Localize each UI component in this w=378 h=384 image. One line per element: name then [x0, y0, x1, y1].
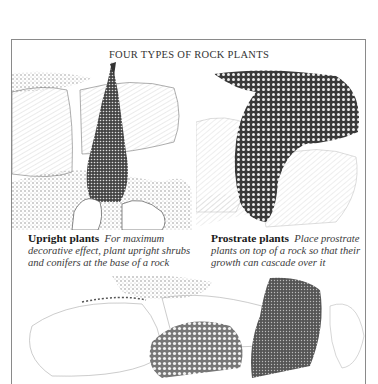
cushion-plants-illustration — [12, 276, 365, 378]
upright-plants-caption: Upright plants For maximum decorative ef… — [28, 232, 203, 269]
prostrate-plants-caption: Prostrate plants Place prostrate plants … — [211, 232, 371, 269]
upright-plant-illustration — [12, 62, 192, 230]
prostrate-plants-heading: Prostrate plants — [211, 232, 289, 244]
page-title: FOUR TYPES OF ROCK PLANTS — [0, 49, 378, 60]
prostrate-plant-illustration — [196, 62, 366, 230]
upright-plants-heading: Upright plants — [28, 232, 99, 244]
